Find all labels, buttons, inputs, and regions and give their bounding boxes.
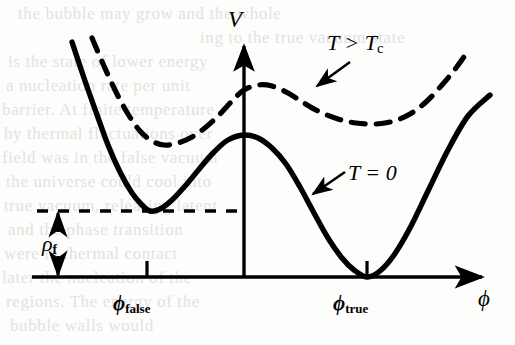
tick-label-phi-true: ϕtrue <box>333 293 368 315</box>
tick-label-phi-false-subscript: false <box>125 301 150 316</box>
tick-label-phi-false-symbol: ϕ <box>113 291 125 315</box>
figure-page: the bubble may grow and the wholeing to … <box>0 0 515 345</box>
potential-plot-svg <box>0 0 515 345</box>
energy-gap-label: ρf <box>42 233 57 257</box>
tick-label-phi-true-symbol: ϕ <box>333 291 345 315</box>
hot-curve-label-text: T > T <box>327 30 377 55</box>
y-axis-label: V <box>228 8 242 31</box>
tick-label-phi-true-subscript: true <box>345 301 368 316</box>
energy-gap-label-symbol: ρ <box>42 231 53 256</box>
hot-curve-label-subscript: c <box>377 40 383 56</box>
hot-curve-label: T > Tc <box>327 32 383 56</box>
energy-gap-label-subscript: f <box>53 242 58 257</box>
x-axis-label: ϕ <box>478 287 490 310</box>
tick-label-phi-false: ϕfalse <box>113 293 150 315</box>
hot-label-leader-arrow <box>317 62 350 86</box>
cold-label-leader-arrow <box>313 172 345 194</box>
cold-curve-label: T = 0 <box>348 162 397 184</box>
hot-potential-curve <box>92 38 466 145</box>
cold-potential-curve <box>72 42 490 277</box>
